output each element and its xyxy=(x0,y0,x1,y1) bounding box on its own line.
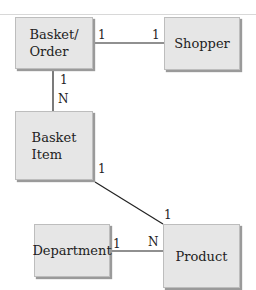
entity-shopper: Shopper xyxy=(164,17,240,70)
cardinality-product-from-basketitem: 1 xyxy=(164,209,172,221)
entity-basket-item: Basket Item xyxy=(15,111,93,180)
entity-label: Item xyxy=(32,146,77,163)
entity-label: Basket xyxy=(32,129,77,146)
entity-label: Product xyxy=(176,248,228,265)
entity-department: Department xyxy=(34,224,110,277)
cardinality-shopper-from-order: 1 xyxy=(152,29,160,41)
line-basketitem-product xyxy=(95,182,163,224)
cardinality-department-to-product: 1 xyxy=(113,238,121,250)
entity-basket-order: Basket/ Order xyxy=(15,17,93,69)
entity-label: Shopper xyxy=(174,35,230,52)
cardinality-order-to-shopper: 1 xyxy=(98,29,106,41)
cardinality-basketitem-to-product: 1 xyxy=(98,163,106,175)
cardinality-product-from-department: N xyxy=(148,236,159,248)
entity-label: Order xyxy=(29,43,78,60)
cardinality-basketitem-from-order: N xyxy=(58,93,69,105)
entity-label: Basket/ xyxy=(29,26,78,43)
cardinality-order-to-basketitem: 1 xyxy=(60,74,68,86)
entity-label: Department xyxy=(32,242,111,259)
entity-product: Product xyxy=(163,224,240,288)
